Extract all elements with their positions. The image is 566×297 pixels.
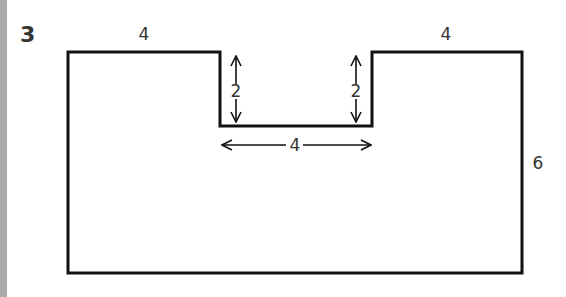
label-notch-right-depth: 2 — [351, 81, 362, 101]
label-top-right-width: 4 — [441, 24, 452, 44]
notched-rectangle-diagram: 4 4 2 2 4 6 — [0, 0, 566, 297]
label-top-left-width: 4 — [139, 24, 150, 44]
label-right-height: 6 — [533, 153, 544, 173]
label-notch-width: 4 — [290, 135, 301, 155]
shape-outline — [68, 52, 522, 273]
label-notch-left-depth: 2 — [231, 81, 242, 101]
